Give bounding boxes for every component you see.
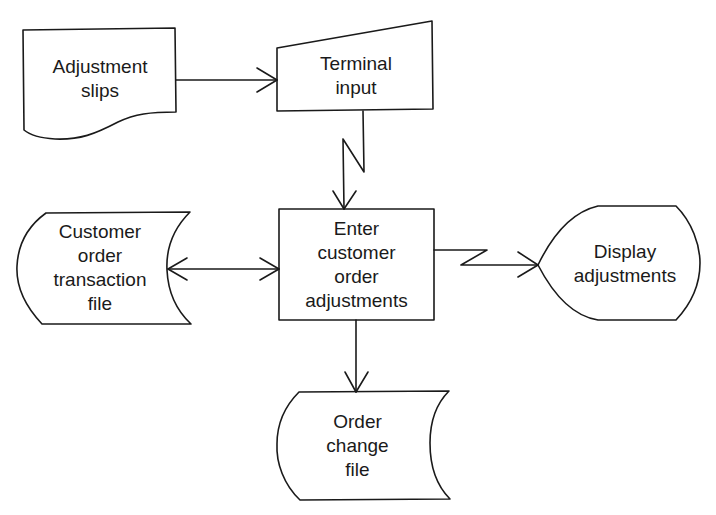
node-customer-order-transaction-file: Customer order transaction file xyxy=(22,220,178,316)
node-terminal-input: Terminal input xyxy=(280,52,432,100)
node-order-change-file: Order change file xyxy=(285,410,430,482)
node-enter-customer-order-adjustments: Enter customer order adjustments xyxy=(279,217,434,313)
node-adjustment-slips: Adjustment slips xyxy=(26,55,174,103)
communication-link-process-to-display xyxy=(434,250,538,265)
node-display-adjustments: Display adjustments xyxy=(550,240,700,288)
